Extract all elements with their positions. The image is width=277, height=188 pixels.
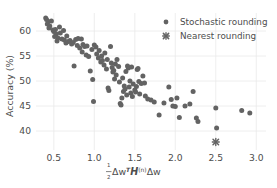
legend-label-2: Nearest rounding: [180, 31, 256, 41]
scatter-point-circle: [127, 85, 132, 90]
x-tick-label: 1.5: [127, 152, 142, 163]
scatter-point-circle: [57, 25, 62, 30]
scatter-point-circle: [119, 96, 124, 101]
scatter-point-circle: [108, 44, 113, 49]
scatter-point-circle: [169, 97, 174, 102]
x-axis-tick-labels: 0.51.01.52.02.53.0: [47, 152, 264, 163]
scatter-point-circle: [177, 115, 182, 120]
scatter-point-circle: [64, 34, 69, 39]
y-tick-label: 60: [19, 25, 31, 36]
scatter-point-circle: [136, 66, 141, 71]
x-tick-label: 0.5: [47, 152, 62, 163]
y-axis-tick-labels: 4045505560: [19, 25, 31, 136]
scatter-point-circle: [111, 68, 116, 73]
scatter-point-circle: [100, 58, 105, 63]
scatter-point-circle: [114, 73, 119, 78]
x-tick-label: 2.5: [208, 152, 223, 163]
scatter-point-circle: [183, 104, 188, 109]
scatter-point-circle: [174, 96, 179, 101]
scatter-point-circle: [117, 80, 122, 85]
scatter-point-circle: [61, 28, 66, 33]
scatter-point-circle: [157, 113, 162, 118]
scatter-point-circle: [88, 69, 93, 74]
scatter-point-circle: [152, 100, 157, 105]
legend-marker-2: [163, 33, 170, 40]
x-axis-title-expression: ΔwTH(n)Δw: [112, 166, 161, 177]
scatter-point-x-cross: [212, 139, 219, 146]
x-tick-label: 1.0: [87, 152, 102, 163]
scatter-point-circle: [187, 102, 192, 107]
y-tick-label: 45: [19, 100, 31, 111]
scatter-point-circle: [191, 89, 196, 94]
x-axis-title: 1 2 ΔwTH(n)Δw: [106, 162, 161, 180]
y-axis-title: Accuracy (%): [4, 55, 15, 117]
scatter-point-circle: [106, 88, 111, 93]
scatter-point-circle: [105, 57, 110, 62]
scatter-point-circle: [72, 64, 77, 69]
scatter-point-circle: [86, 54, 91, 59]
scatter-point-circle: [80, 50, 85, 55]
y-tick-label: 55: [19, 50, 31, 61]
x-tick-label: 3.0: [249, 152, 264, 163]
scatter-point-circle: [142, 81, 147, 86]
series-nearest-rounding: [212, 139, 219, 146]
scatter-point-circle: [55, 39, 60, 44]
scatter-point-circle: [195, 119, 200, 124]
legend-marker-1: [164, 20, 169, 25]
scatter-point-circle: [130, 94, 135, 99]
scatter-point-circle: [129, 65, 134, 70]
scatter-point-circle: [49, 19, 54, 24]
scatter-point-circle: [239, 108, 244, 113]
y-tick-label: 50: [19, 75, 31, 86]
scatter-point-circle: [102, 51, 107, 56]
scatter-point-circle: [137, 92, 142, 97]
legend-label-1: Stochastic rounding: [180, 17, 267, 27]
scatter-point-circle: [97, 48, 102, 53]
y-tick-label: 40: [19, 125, 31, 136]
scatter-point-circle: [90, 77, 95, 82]
scatter-point-circle: [91, 99, 96, 104]
scatter-point-circle: [214, 126, 219, 131]
scatter-point-circle: [213, 106, 218, 111]
scatter-point-circle: [85, 44, 90, 49]
scatter-point-circle: [120, 76, 125, 81]
scatter-point-circle: [79, 37, 84, 42]
svg-text:2: 2: [107, 174, 110, 180]
scatter-point-circle: [166, 85, 171, 90]
scatter-point-circle: [116, 64, 121, 69]
scatter-point-circle: [247, 111, 252, 116]
scatter-point-circle: [173, 104, 178, 109]
scatter-point-circle: [119, 103, 124, 108]
plot-canvas: 0.51.01.52.02.53.0 4045505560 Accuracy (…: [0, 0, 277, 188]
scatter-point-circle: [140, 74, 145, 79]
scatter-chart-figure: 0.51.01.52.02.53.0 4045505560 Accuracy (…: [0, 0, 277, 188]
svg-text:1: 1: [107, 162, 110, 168]
x-tick-label: 2.0: [168, 152, 183, 163]
scatter-point-circle: [134, 84, 139, 89]
scatter-point-circle: [114, 57, 119, 62]
scatter-point-circle: [161, 101, 166, 106]
scatter-point-circle: [104, 67, 109, 72]
